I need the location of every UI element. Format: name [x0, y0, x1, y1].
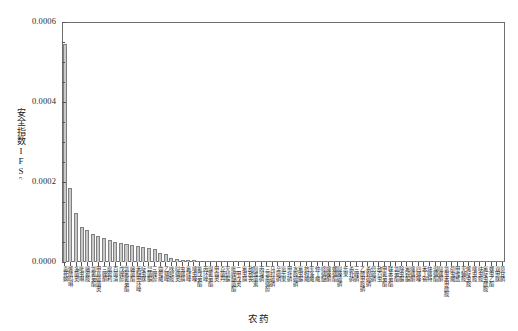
- y-tick-mark-minor: [62, 142, 65, 143]
- y-axis-title: 安全指数IFSc: [14, 90, 28, 198]
- x-tick-label: 草甘膦: [500, 266, 506, 281]
- y-tick-mark-minor: [62, 122, 65, 123]
- y-tick-mark: [62, 262, 66, 263]
- x-axis-tick-labels: 毒死蜱烯酰吗啉多菌灵吡虫啉嘧霉胺氯氰菊酯甲基硫菌灵三唑酮腐霉利百菌清戊唑醇氯氟氰…: [62, 266, 505, 308]
- y-tick-mark: [62, 102, 66, 103]
- y-tick-label: 0.0000: [32, 257, 56, 266]
- y-axis-tick-labels: 0.00000.00020.00040.0006: [0, 0, 56, 331]
- y-tick-mark-minor: [62, 42, 65, 43]
- y-tick-label: 0.0006: [32, 17, 56, 26]
- bar-chart-figure: 0.00000.00020.00040.0006 安全指数IFSc 毒死蜱烯酰吗…: [0, 0, 518, 331]
- y-tick-mark-minor: [62, 162, 65, 163]
- y-tick-mark-minor: [62, 62, 65, 63]
- x-label-slot: 草甘膦: [500, 266, 506, 308]
- y-axis-title-text: 安全指数IFS: [15, 108, 27, 177]
- y-tick-label: 0.0002: [32, 177, 56, 186]
- y-axis-title-subscript: c: [15, 177, 27, 180]
- x-axis-title: 农药: [0, 311, 518, 325]
- y-tick-label: 0.0004: [32, 97, 56, 106]
- y-tick-mark-minor: [62, 222, 65, 223]
- y-tick-mark-minor: [62, 202, 65, 203]
- y-tick-mark: [62, 22, 66, 23]
- y-tick-mark: [62, 182, 66, 183]
- y-tick-mark-minor: [62, 82, 65, 83]
- y-tick-mark-minor: [62, 242, 65, 243]
- plot-area: [62, 22, 505, 262]
